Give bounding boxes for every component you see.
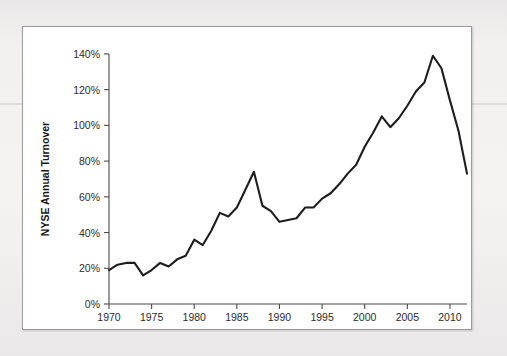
x-tick-label: 1995 [310,311,334,323]
x-tick-label: 1970 [97,311,121,323]
x-tick-label: 1990 [268,311,292,323]
data-series-line [109,56,467,276]
y-tick-label: 140% [73,48,100,60]
x-tick-label: 1975 [140,311,164,323]
chart-plot-area: 0%20%40%60%80%100%120%140% 1970197519801… [23,27,473,331]
y-axis-ticks: 0%20%40%60%80%100%120%140% [73,48,109,310]
x-tick-label: 2005 [396,311,420,323]
y-tick-label: 0% [85,298,100,310]
x-tick-label: 2010 [438,311,462,323]
y-tick-label: 100% [73,119,100,131]
x-axis-ticks: 197019751980198519901995200020052010 [97,304,461,323]
x-tick-label: 1985 [225,311,249,323]
y-axis-title: NYSE Annual Turnover [39,122,51,236]
y-tick-label: 80% [79,155,100,167]
x-tick-label: 2000 [353,311,377,323]
y-tick-label: 60% [79,191,100,203]
line-chart: 0%20%40%60%80%100%120%140% 1970197519801… [23,27,473,331]
x-tick-label: 1980 [183,311,207,323]
y-tick-label: 20% [79,262,100,274]
y-tick-label: 120% [73,84,100,96]
figure-frame: 0%20%40%60%80%100%120%140% 1970197519801… [22,26,472,330]
y-tick-label: 40% [79,227,100,239]
